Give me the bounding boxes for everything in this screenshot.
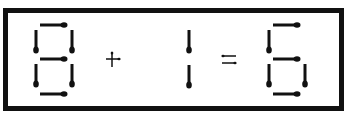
matchstick-f[interactable]	[266, 30, 272, 54]
matchstick-c[interactable]	[69, 64, 75, 88]
equals-operator	[221, 55, 236, 65]
matchstick-canvas	[0, 0, 351, 115]
matchstick-b[interactable]	[186, 30, 192, 54]
matchstick-a[interactable]	[40, 22, 68, 28]
matchstick-d[interactable]	[273, 91, 301, 97]
digit-8	[33, 22, 75, 97]
matchstick-c[interactable]	[186, 65, 192, 89]
matchstick-a[interactable]	[273, 22, 301, 28]
matchstick-g[interactable]	[40, 56, 68, 62]
matchstick-c[interactable]	[302, 64, 308, 88]
matchstick-g[interactable]	[273, 56, 301, 62]
digit-1	[186, 30, 192, 89]
plus-operator	[106, 51, 121, 67]
matchstick-e[interactable]	[33, 64, 39, 88]
matchstick-b[interactable]	[69, 30, 75, 54]
matchstick-d[interactable]	[40, 91, 68, 97]
matchstick-e[interactable]	[266, 64, 272, 88]
digit-6	[266, 22, 308, 97]
matchstick-f[interactable]	[33, 30, 39, 54]
